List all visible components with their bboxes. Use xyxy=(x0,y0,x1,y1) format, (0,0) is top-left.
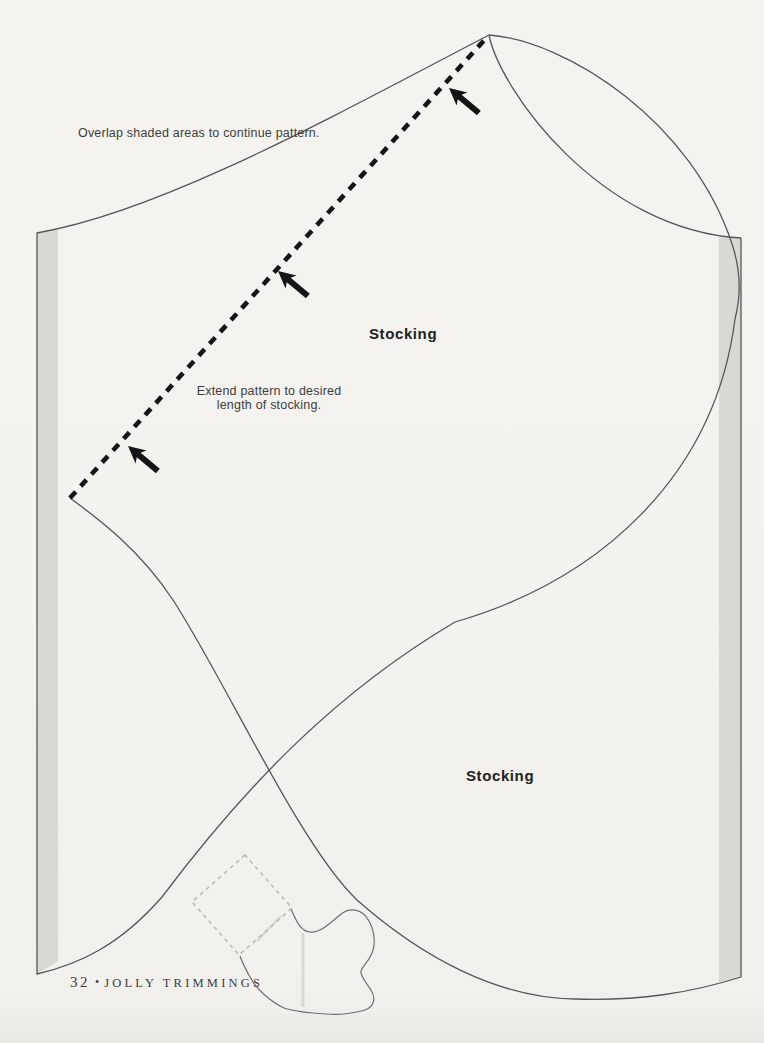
mini-extension-dashed-square xyxy=(192,855,292,955)
page-number: 32 xyxy=(70,974,90,990)
stocking-piece-2-label: Stocking xyxy=(466,767,534,784)
extend-instruction-line-1: Extend pattern to desired xyxy=(188,384,350,398)
pattern-diagram xyxy=(0,0,764,1043)
mini-cut-line xyxy=(257,916,281,941)
stocking-piece-1-outline xyxy=(37,35,739,974)
pattern-extension-dashed-line xyxy=(70,36,488,498)
extend-instruction-note: Extend pattern to desired length of stoc… xyxy=(188,384,350,412)
overlap-instruction-note: Overlap shaded areas to continue pattern… xyxy=(78,126,320,140)
book-title: JOLLY TRIMMINGS xyxy=(104,976,263,990)
book-page: Overlap shaded areas to continue pattern… xyxy=(0,0,764,1043)
stocking-piece-2-top-edge xyxy=(489,35,741,238)
stocking-piece-1-label: Stocking xyxy=(369,325,437,342)
extend-direction-arrow-icon xyxy=(123,439,164,477)
extend-direction-arrows xyxy=(123,81,485,477)
footer-bullet-icon: • xyxy=(90,975,104,989)
extend-direction-arrow-icon xyxy=(444,81,485,119)
left-overlap-shaded-area xyxy=(37,230,58,974)
extend-instruction-line-2: length of stocking. xyxy=(188,398,350,412)
page-footer: 32•JOLLY TRIMMINGS xyxy=(70,973,263,991)
mini-stocking-outline xyxy=(240,909,374,1014)
